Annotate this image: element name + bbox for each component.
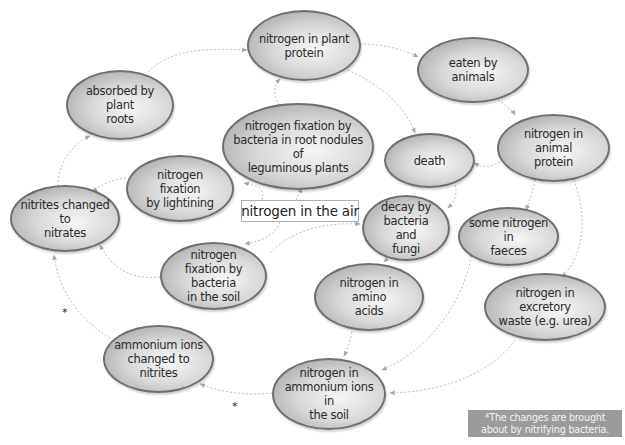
- node-lightning: nitrogen fixation by lightining: [126, 155, 234, 222]
- arrow-lightning-to-nitrates: [93, 178, 126, 192]
- nitrogen-cycle-diagram: nitrogen in plant protein eaten by anima…: [0, 0, 625, 445]
- arrow-ammonium-to-nitrite-conv: [200, 384, 272, 394]
- arrow-roots-to-plant-protein: [148, 49, 247, 72]
- node-root-nodules: nitrogen fixation by bacteria in root no…: [222, 103, 374, 190]
- node-soil-bacteria: nitrogen fixation by bacteria in the soi…: [160, 242, 267, 310]
- arrow-soil-bacteria-to-nitrates: [100, 245, 160, 277]
- node-absorbed-by-roots: absorbed by plant roots: [66, 70, 174, 140]
- node-label: decay by bacteria and fungi: [372, 200, 440, 256]
- node-label: nitrogen in amino acids: [324, 276, 414, 318]
- node-label: nitrogen fixation by bacteria in root no…: [232, 119, 364, 175]
- node-animal-protein: nitrogen in animal protein: [497, 114, 610, 182]
- arrow-animal-protein-to-faeces: [526, 180, 535, 210]
- arrow-root-nodules-to-plant-protein: [275, 79, 280, 105]
- nitrifying-star-marker: *: [62, 306, 68, 319]
- node-label: eaten by animals: [427, 56, 519, 84]
- node-plant-protein: nitrogen in plant protein: [247, 10, 361, 81]
- node-label: nitrogen fixation by bacteria in the soi…: [170, 248, 257, 304]
- note-text: *The changes are brought about by nitrif…: [481, 412, 609, 435]
- arrow-air-to-lightning: [244, 183, 263, 200]
- nitrifying-star-marker: *: [232, 400, 238, 413]
- arrow-plant-protein-to-eaten: [360, 44, 418, 57]
- arrow-death-to-decay: [448, 185, 456, 208]
- node-ammonium-soil: nitrogen in ammonium ions in the soil: [272, 358, 386, 430]
- node-label: some nitrogen in faeces: [468, 216, 549, 258]
- node-label: nitrogen fixation by lightining: [136, 168, 224, 210]
- node-excretory-waste: nitrogen in excretory waste (e.g. urea): [484, 273, 606, 341]
- arrow-nitrates-to-roots: [58, 136, 90, 186]
- node-decay: decay by bacteria and fungi: [362, 195, 450, 261]
- nitrifying-bacteria-note: *The changes are brought about by nitrif…: [468, 410, 622, 437]
- arrow-air-to-soil-bacteria: [245, 222, 280, 244]
- node-faeces: some nitrogen in faeces: [458, 207, 559, 266]
- arrow-animal-protein-to-death: [474, 162, 500, 166]
- node-amino-acids: nitrogen in amino acids: [314, 263, 424, 331]
- node-eaten-by-animals: eaten by animals: [417, 37, 529, 103]
- nitrogen-in-the-air-label: nitrogen in the air: [241, 200, 359, 222]
- node-label: ammonium ions changed to nitrites: [113, 338, 204, 380]
- node-label: nitrogen in excretory waste (e.g. urea): [494, 286, 596, 328]
- node-label: death: [414, 154, 446, 168]
- arrow-nitrites-conv-to-nitrates: [54, 255, 110, 338]
- arrow-animal-protein-to-excretory: [562, 180, 582, 277]
- node-label: nitrogen in animal protein: [507, 127, 600, 169]
- node-label: nitrogen in plant protein: [259, 32, 349, 60]
- node-label: nitrogen in ammonium ions in the soil: [282, 366, 376, 422]
- node-death: death: [384, 133, 475, 188]
- arrow-eaten-to-animal-protein: [495, 97, 515, 115]
- arrow-amino-to-ammonium: [344, 332, 352, 356]
- arrow-air-to-decay: [270, 224, 360, 253]
- node-ammonium-to-nitrites: ammonium ions changed to nitrites: [103, 325, 214, 393]
- node-label: nitrites changed to nitrates: [20, 198, 110, 240]
- arrow-excretory-to-ammonium: [390, 340, 515, 393]
- node-label: absorbed by plant roots: [76, 84, 164, 126]
- node-nitrites-to-nitrates: nitrites changed to nitrates: [10, 185, 120, 252]
